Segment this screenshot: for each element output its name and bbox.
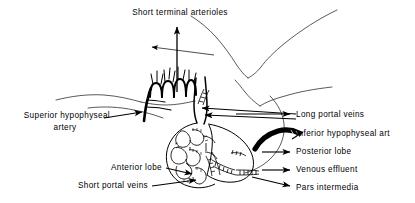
label-long-portal-veins: Long portal veins — [296, 110, 364, 120]
label-short-terminal-arterioles: Short terminal arterioles — [110, 8, 250, 18]
label-pars-intermedia: Pars intermedia — [296, 183, 359, 193]
label-inferior-hypophyseal-artery: Inferior hypophyseal art — [296, 129, 390, 139]
label-superior-hypophyseal-artery-line2: artery — [30, 123, 100, 133]
label-short-portal-veins: Short portal veins — [38, 181, 148, 191]
figure-canvas: Short terminal arterioles Superior hypop… — [0, 0, 415, 203]
label-posterior-lobe: Posterior lobe — [296, 147, 351, 157]
label-superior-hypophyseal-artery-line1: Superior hypophyseal — [6, 111, 110, 121]
label-anterior-lobe: Anterior lobe — [60, 163, 162, 173]
label-venous-effluent: Venous effluent — [296, 165, 358, 175]
